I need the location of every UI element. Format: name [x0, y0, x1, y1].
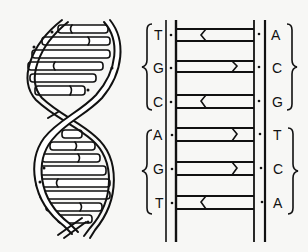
base-label-left-2: G	[153, 60, 164, 76]
base-label-right-6: A	[273, 195, 283, 211]
left-base-labels: T G C A G T	[153, 27, 164, 211]
double-helix	[28, 20, 121, 238]
base-label-left-3: C	[153, 94, 163, 110]
base-label-left-5: G	[153, 161, 164, 177]
base-label-right-2: C	[272, 60, 282, 76]
base-label-right-3: G	[272, 94, 283, 110]
right-braces	[287, 24, 298, 214]
base-label-left-1: T	[154, 27, 163, 43]
dna-diagram: T G C A G T A C G T C A	[0, 0, 308, 252]
base-label-right-1: A	[271, 27, 281, 43]
left-braces	[142, 24, 152, 214]
base-label-left-4: A	[153, 127, 163, 143]
base-label-right-5: C	[273, 161, 283, 177]
base-label-right-4: T	[273, 127, 282, 143]
ladder-dots	[170, 33, 264, 205]
ladder-rungs	[176, 29, 254, 209]
base-label-left-6: T	[155, 195, 164, 211]
helix-upper-rungs	[28, 25, 110, 95]
right-base-labels: A C G T C A	[271, 27, 283, 211]
